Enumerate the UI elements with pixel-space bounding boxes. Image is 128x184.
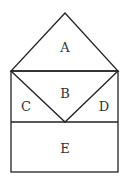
geometric-diagram: A B C D E bbox=[0, 0, 128, 184]
label-c: C bbox=[21, 99, 31, 114]
label-a: A bbox=[59, 40, 70, 55]
label-e: E bbox=[60, 141, 70, 156]
label-b: B bbox=[60, 86, 70, 101]
label-d: D bbox=[99, 99, 109, 114]
